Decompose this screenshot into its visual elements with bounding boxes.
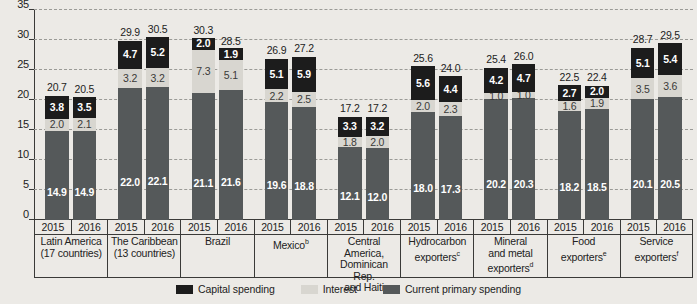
stacked-bar[interactable]: 12.02.03.217.2 (366, 117, 390, 220)
segment-current-primary-spending[interactable]: 20.5 (658, 97, 682, 220)
y-tick-label-35: 35 (17, 0, 29, 10)
legend-item[interactable]: Interest (301, 283, 357, 295)
segment-current-primary-spending[interactable]: 21.1 (192, 93, 216, 220)
segment-current-primary-spending[interactable]: 14.9 (45, 131, 69, 220)
segment-current-primary-spending[interactable]: 19.6 (265, 102, 289, 220)
segment-interest[interactable]: 5.1 (219, 60, 243, 91)
segment-interest[interactable]: 7.3 (192, 50, 216, 94)
x-axis-group-6: 20152016Hydrocarbonexportersc (400, 220, 473, 277)
stacked-bar[interactable]: 21.17.32.030.3 (192, 38, 216, 220)
stacked-bar[interactable]: 18.82.55.927.2 (292, 57, 316, 220)
stacked-bar[interactable]: 20.53.65.429.5 (658, 43, 682, 220)
segment-current-primary-spending[interactable]: 18.8 (292, 107, 316, 220)
stacked-bar[interactable]: 14.92.03.820.7 (45, 96, 69, 220)
segment-interest[interactable]: 2.0 (45, 119, 69, 131)
year-label: 2016 (510, 220, 547, 234)
segment-current-primary-spending[interactable]: 20.3 (512, 98, 536, 220)
segment-interest[interactable]: 3.2 (146, 68, 170, 87)
segment-capital-spending[interactable]: 4.4 (439, 76, 463, 102)
stacked-bar[interactable]: 22.03.24.729.9 (118, 41, 142, 220)
stacked-bar[interactable]: 20.13.55.128.7 (631, 48, 655, 220)
stacked-bar[interactable]: 20.21.04.225.4 (484, 68, 508, 220)
stacked-bar[interactable]: 18.21.62.722.5 (558, 85, 582, 220)
segment-capital-spending[interactable]: 2.0 (585, 86, 609, 98)
segment-capital-spending[interactable]: 5.2 (146, 37, 170, 68)
segment-current-primary-spending[interactable]: 22.1 (146, 87, 170, 220)
segment-capital-spending[interactable]: 3.8 (45, 96, 69, 119)
stacked-bar[interactable]: 17.32.34.424.0 (439, 76, 463, 220)
segment-value-label: 20.5 (660, 179, 680, 190)
segment-current-primary-spending[interactable]: 18.2 (558, 111, 582, 220)
segment-value-label: 18.0 (413, 183, 433, 194)
segment-capital-spending[interactable]: 5.9 (292, 57, 316, 92)
year-row: 20152016 (474, 220, 546, 235)
category-label-line: Brazil (182, 236, 252, 248)
segment-capital-spending[interactable]: 2.0 (192, 38, 216, 50)
y-tick-label-10: 10 (17, 148, 29, 160)
segment-capital-spending[interactable]: 3.3 (338, 117, 362, 137)
stacked-bar[interactable]: 18.02.05.625.6 (411, 66, 435, 220)
bar-total-label: 27.2 (294, 43, 314, 54)
segment-value-label: 1.6 (562, 101, 576, 112)
legend-item[interactable]: Current primary spending (383, 283, 521, 295)
segment-current-primary-spending[interactable]: 17.3 (439, 116, 463, 220)
segment-capital-spending[interactable]: 5.4 (658, 43, 682, 75)
segment-interest[interactable]: 2.3 (439, 102, 463, 116)
segment-capital-spending[interactable]: 3.5 (73, 97, 97, 118)
segment-interest[interactable]: 2.0 (411, 100, 435, 112)
segment-capital-spending[interactable]: 1.9 (219, 48, 243, 59)
segment-value-label: 22.0 (120, 177, 140, 188)
segment-current-primary-spending[interactable]: 14.9 (73, 131, 97, 220)
category-label-line: Service (622, 236, 691, 248)
category-label-line: exporterse (549, 248, 619, 263)
segment-value-label: 4.4 (443, 84, 457, 95)
segment-interest[interactable]: 2.2 (265, 89, 289, 102)
legend-item[interactable]: Capital spending (176, 283, 275, 295)
segment-interest[interactable]: 2.5 (292, 92, 316, 107)
segment-value-label: 22.1 (148, 176, 168, 187)
segment-capital-spending[interactable]: 5.6 (411, 66, 435, 100)
segment-interest[interactable]: 3.6 (658, 75, 682, 97)
segment-interest[interactable]: 1.0 (484, 93, 508, 99)
segment-current-primary-spending[interactable]: 22.0 (118, 88, 142, 220)
bar-total-label: 20.5 (75, 84, 95, 95)
segment-value-label: 2.0 (416, 101, 430, 112)
segment-current-primary-spending[interactable]: 12.1 (338, 147, 362, 220)
segment-current-primary-spending[interactable]: 21.6 (219, 90, 243, 220)
stacked-bar[interactable]: 20.31.04.726.0 (512, 64, 536, 220)
segment-current-primary-spending[interactable]: 20.1 (631, 99, 655, 220)
segment-capital-spending[interactable]: 3.2 (366, 117, 390, 136)
segment-current-primary-spending[interactable]: 18.0 (411, 112, 435, 220)
segment-value-label: 20.1 (633, 179, 653, 190)
x-axis-group-1: 20152016Latin America(17 countries) (34, 220, 107, 277)
segment-value-label: 3.5 (77, 102, 91, 113)
segment-interest[interactable]: 1.6 (558, 101, 582, 111)
year-label: 2015 (255, 220, 291, 234)
segment-interest[interactable]: 2.1 (73, 118, 97, 131)
segment-interest[interactable]: 3.2 (118, 69, 142, 88)
bar-total-label: 22.5 (560, 72, 580, 83)
segment-value-label: 18.2 (560, 182, 580, 193)
segment-current-primary-spending[interactable]: 18.5 (585, 109, 609, 220)
segment-interest[interactable]: 2.0 (366, 136, 390, 148)
stacked-bar[interactable]: 12.11.83.317.2 (338, 117, 362, 220)
stacked-bar[interactable]: 21.65.11.928.5 (219, 49, 243, 220)
stacked-bar[interactable]: 14.92.13.520.5 (73, 97, 97, 220)
bar-total-label: 25.4 (486, 54, 506, 65)
segment-interest[interactable]: 3.5 (631, 78, 655, 99)
segment-capital-spending[interactable]: 5.1 (631, 48, 655, 79)
segment-capital-spending[interactable]: 4.7 (512, 64, 536, 92)
segment-capital-spending[interactable]: 5.1 (265, 59, 289, 90)
segment-capital-spending[interactable]: 4.7 (118, 41, 142, 69)
segment-capital-spending[interactable]: 4.2 (484, 68, 508, 93)
segment-interest[interactable]: 1.0 (512, 92, 536, 98)
stacked-bar[interactable]: 19.62.25.126.9 (265, 59, 289, 220)
stacked-bar[interactable]: 22.13.25.230.5 (146, 37, 170, 220)
segment-interest[interactable]: 1.9 (585, 98, 609, 109)
segment-capital-spending[interactable]: 2.7 (558, 85, 582, 101)
segment-current-primary-spending[interactable]: 20.2 (484, 99, 508, 220)
stacked-bar[interactable]: 18.51.92.022.4 (585, 86, 609, 220)
segment-interest[interactable]: 1.8 (338, 137, 362, 148)
segment-current-primary-spending[interactable]: 12.0 (366, 148, 390, 220)
bar-total-label: 25.6 (413, 53, 433, 64)
